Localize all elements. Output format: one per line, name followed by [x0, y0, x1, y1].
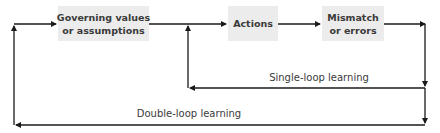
node-label-line1: Mismatch: [327, 12, 379, 23]
node-governing-values: Governing values or assumptions: [57, 6, 151, 41]
node-actions: Actions: [228, 6, 278, 41]
node-label-line1: Governing values: [57, 12, 151, 23]
double-loop-label: Double-loop learning: [137, 108, 241, 119]
learning-loops-diagram: Governing values or assumptions Actions …: [0, 0, 440, 133]
node-mismatch-or-errors: Mismatch or errors: [322, 6, 384, 41]
node-label-line2: or errors: [329, 25, 377, 36]
node-label-line1: Actions: [233, 18, 273, 29]
single-loop-label: Single-loop learning: [269, 72, 369, 83]
diagram-canvas: Governing values or assumptions Actions …: [0, 0, 440, 133]
node-label-line2: or assumptions: [62, 25, 145, 36]
